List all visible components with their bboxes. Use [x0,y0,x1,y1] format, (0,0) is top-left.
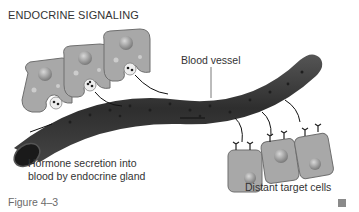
secretion-label-line2: blood by endocrine gland [28,170,188,183]
end-marker-icon [338,199,346,207]
secretion-label-line1: Hormone secretion into [28,157,188,170]
blood-vessel-label: Blood vessel [181,54,241,67]
diagram-title: ENDOCRINE SIGNALING [8,9,139,22]
secretion-label: Hormone secretion into blood by endocrin… [28,157,188,183]
target-cells-label: Distant target cells [245,181,331,194]
figure-caption: Figure 4–3 [8,196,58,209]
